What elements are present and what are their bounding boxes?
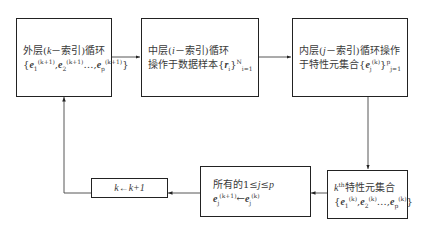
outer-loop-box: 外层(k－索引)循环 {e1(k+1),e2(k+1)…,ep(k+1)} <box>16 18 112 97</box>
inner-loop-set: 于特性元集合{ej(k)}pj=1 <box>299 58 407 72</box>
update-all-box: 所有的1≤j≤p ej(k+1)←ej(k) <box>200 166 311 217</box>
middle-loop-samples: 操作于数据样本{ri}Ni=1 <box>148 58 258 72</box>
middle-loop-box: 中层(i－索引)循环 操作于数据样本{ri}Ni=1 <box>141 18 259 97</box>
kth-set-title: kth特性元集合 <box>334 181 407 195</box>
inner-loop-title: 内层(j－索引)循环操作 <box>299 44 407 58</box>
kth-set-box: kth特性元集合 {e1(k),e2(k)…,ep(k)} <box>327 170 408 219</box>
inner-loop-box: 内层(j－索引)循环操作 于特性元集合{ej(k)}pj=1 <box>292 18 408 97</box>
update-all-range: 所有的1≤j≤p <box>213 178 310 192</box>
increment-label: k←k+1 <box>114 181 145 195</box>
outer-loop-title: 外层(k－索引)循环 <box>23 44 111 58</box>
update-all-assignment: ej(k+1)←ej(k) <box>213 192 310 206</box>
outer-loop-set: {e1(k+1),e2(k+1)…,ep(k+1)} <box>23 58 111 72</box>
kth-set-members: {e1(k),e2(k)…,ep(k)} <box>334 195 407 209</box>
middle-loop-title: 中层(i－索引)循环 <box>148 44 258 58</box>
increment-box: k←k+1 <box>91 178 168 198</box>
arrow-increment-to-outer <box>64 97 91 193</box>
